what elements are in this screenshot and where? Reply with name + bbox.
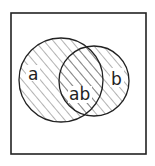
set-b-label: b bbox=[111, 69, 122, 89]
venn-diagram: a ab b bbox=[0, 0, 155, 166]
intersection-label: ab bbox=[69, 84, 90, 104]
set-a-label: a bbox=[28, 64, 38, 84]
